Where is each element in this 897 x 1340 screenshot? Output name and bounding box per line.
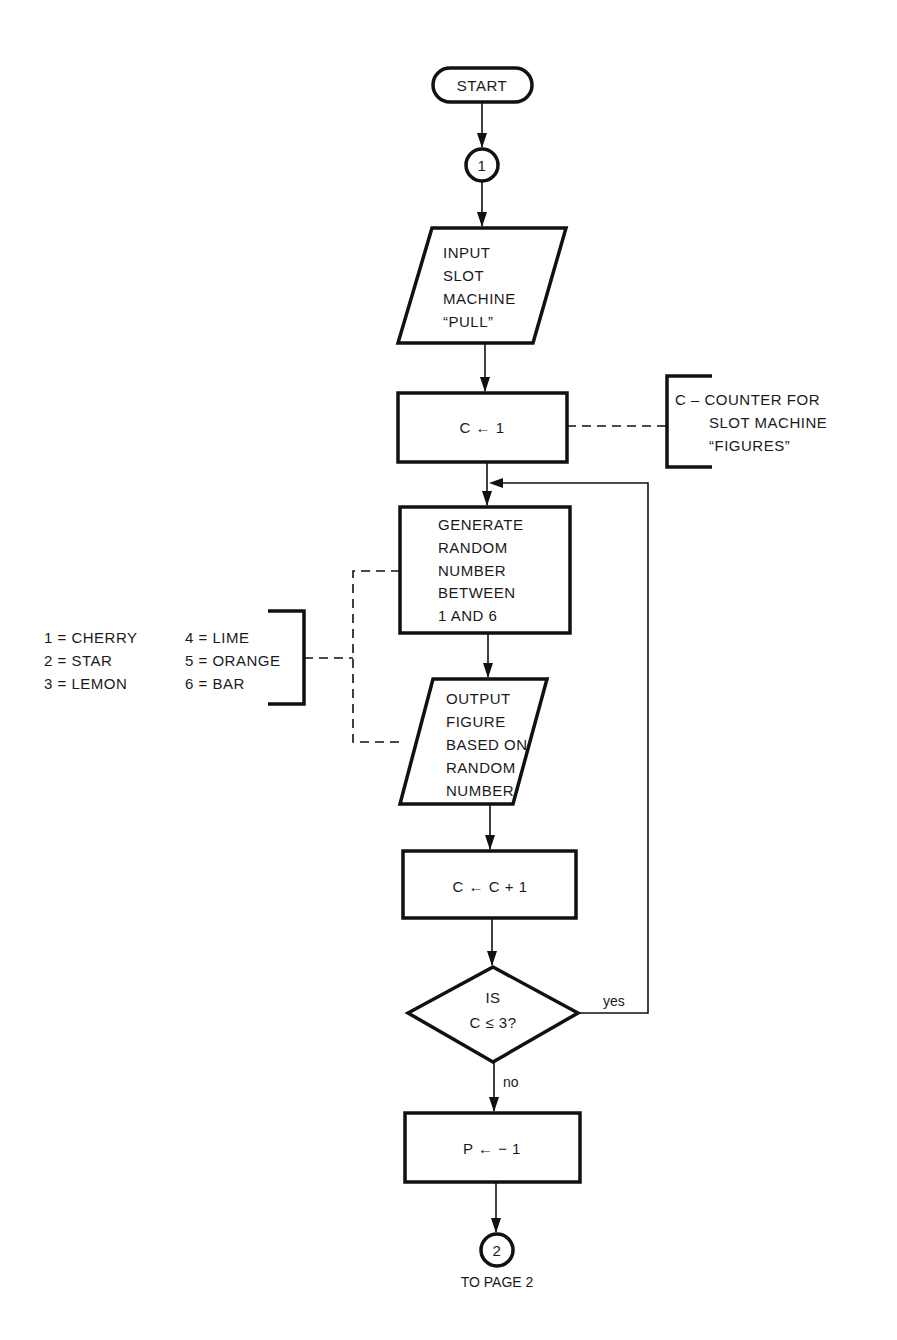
arrowhead-icon xyxy=(489,1097,499,1112)
init-counter-block: C ← 1 xyxy=(398,393,567,462)
legend-item-3: 3 = LEMON xyxy=(44,675,127,692)
legend-item-4: 4 = LIME xyxy=(185,629,249,646)
counter-note-line-3: “FIGURES” xyxy=(709,437,790,454)
generate-line-4: BETWEEN xyxy=(438,584,516,601)
output-figure-block: OUTPUT FIGURE BASED ON RANDOM NUMBER xyxy=(400,679,547,804)
arrowhead-icon xyxy=(483,663,493,678)
no-label: no xyxy=(503,1074,519,1090)
connector-1: 1 xyxy=(466,149,498,181)
arrowhead-icon xyxy=(477,133,487,148)
connector-1-label: 1 xyxy=(478,157,487,174)
counter-note-line-1: C – COUNTER FOR xyxy=(675,391,820,408)
generate-line-3: NUMBER xyxy=(438,562,506,579)
legend-item-6: 6 = BAR xyxy=(185,675,245,692)
legend-item-1: 1 = CHERRY xyxy=(44,629,138,646)
input-line-2: SLOT xyxy=(443,267,484,284)
counter-note-bracket xyxy=(667,376,712,467)
legend-dashed-connector xyxy=(353,571,404,742)
connector-2: 2 xyxy=(481,1234,513,1266)
generate-line-5: 1 AND 6 xyxy=(438,607,497,624)
arrowhead-icon xyxy=(489,478,503,488)
connector-2-label: 2 xyxy=(493,1242,502,1259)
generate-line-2: RANDOM xyxy=(438,539,508,556)
output-line-1: OUTPUT xyxy=(446,690,511,707)
start-label: START xyxy=(457,77,507,94)
input-line-4: “PULL” xyxy=(443,313,494,330)
counter-note-line-2: SLOT MACHINE xyxy=(709,414,827,431)
increment-counter-block: C ← C + 1 xyxy=(403,851,576,918)
set-p-block: P ← − 1 xyxy=(405,1113,580,1182)
output-line-2: FIGURE xyxy=(446,713,506,730)
output-line-5: NUMBER xyxy=(446,782,514,799)
arrowhead-icon xyxy=(485,835,495,850)
set-p-label: P ← − 1 xyxy=(463,1140,521,1157)
arrowhead-icon xyxy=(477,212,487,227)
counter-note: C – COUNTER FOR SLOT MACHINE “FIGURES” xyxy=(675,391,827,454)
generate-random-block: GENERATE RANDOM NUMBER BETWEEN 1 AND 6 xyxy=(400,507,570,633)
arrowhead-icon xyxy=(491,1218,501,1233)
legend-item-5: 5 = ORANGE xyxy=(185,652,280,669)
input-pull-block: INPUT SLOT MACHINE “PULL” xyxy=(398,228,566,343)
yes-label: yes xyxy=(603,993,625,1009)
flowchart: START 1 INPUT SLOT MACHINE “PULL” C ← 1 … xyxy=(0,0,897,1340)
input-line-1: INPUT xyxy=(443,244,491,261)
decision-line-2: C ≤ 3? xyxy=(469,1014,516,1031)
output-line-4: RANDOM xyxy=(446,759,516,776)
generate-line-1: GENERATE xyxy=(438,516,523,533)
decision-counter-check: IS C ≤ 3? xyxy=(408,967,578,1062)
arrowhead-icon xyxy=(487,951,497,966)
output-line-3: BASED ON xyxy=(446,736,528,753)
decision-line-1: IS xyxy=(485,989,500,1006)
init-counter-label: C ← 1 xyxy=(459,419,504,436)
input-line-3: MACHINE xyxy=(443,290,516,307)
arrowhead-icon xyxy=(480,377,490,392)
start-terminal: START xyxy=(433,68,532,102)
legend-item-2: 2 = STAR xyxy=(44,652,112,669)
figure-legend: 1 = CHERRY 2 = STAR 3 = LEMON 4 = LIME 5… xyxy=(44,629,280,692)
to-page-2-caption: TO PAGE 2 xyxy=(461,1274,534,1290)
arrowhead-icon xyxy=(482,491,492,506)
increment-label: C ← C + 1 xyxy=(453,878,528,895)
